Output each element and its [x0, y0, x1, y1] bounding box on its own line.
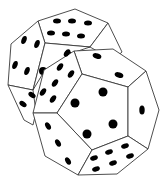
- front-die: [33, 48, 159, 175]
- dice-illustration: Two dodecahedral dice with pips: [0, 0, 165, 185]
- front-die-right-pips: [139, 106, 144, 115]
